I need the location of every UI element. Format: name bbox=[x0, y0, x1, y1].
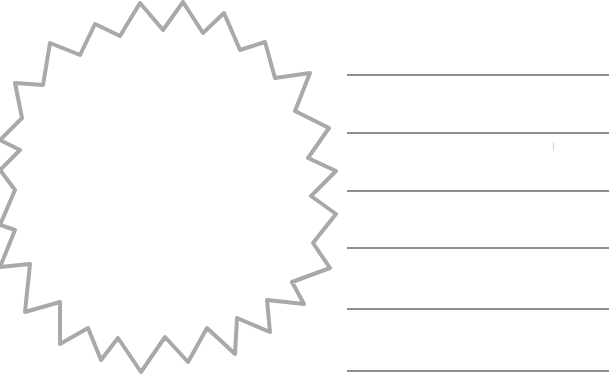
writing-line-2 bbox=[347, 132, 609, 134]
writing-line-6 bbox=[347, 370, 609, 372]
writing-line-3 bbox=[347, 190, 609, 192]
starburst-badge-outline bbox=[0, 0, 345, 390]
stray-pencil-mark bbox=[553, 142, 554, 151]
writing-line-4 bbox=[347, 247, 609, 249]
starburst-shape bbox=[0, 2, 336, 372]
writing-line-5 bbox=[347, 308, 609, 310]
writing-line-1 bbox=[347, 74, 609, 76]
